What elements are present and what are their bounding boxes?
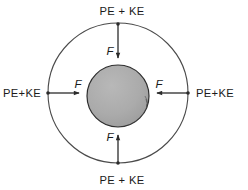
energy-label-top: PE + KE	[99, 5, 144, 17]
force-label-right: F	[155, 78, 163, 90]
force-label-top: F	[106, 45, 114, 57]
physics-diagram: F F F F PE + KE PE + KE PE+KE PE+KE	[0, 0, 248, 190]
energy-label-bottom: PE + KE	[99, 174, 144, 186]
force-label-left: F	[74, 78, 82, 90]
force-label-bottom: F	[106, 131, 114, 143]
diagram-root: F F F F PE + KE PE + KE PE+KE PE+KE	[0, 0, 248, 190]
central-sphere	[87, 65, 151, 141]
energy-label-right: PE+KE	[196, 87, 234, 99]
energy-label-left: PE+KE	[3, 87, 41, 99]
